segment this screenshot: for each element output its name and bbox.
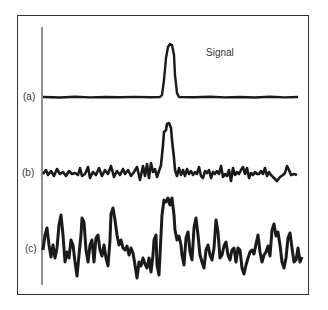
- trace-b-label: (b): [22, 167, 34, 178]
- trace-a-label: (a): [23, 91, 35, 102]
- signal-noise-figure: [0, 0, 328, 310]
- trace-c-label: (c): [25, 243, 37, 254]
- signal-annotation: Signal: [206, 47, 234, 58]
- trace-b: [43, 123, 297, 181]
- trace-c: [43, 198, 302, 278]
- trace-a: [43, 44, 298, 98]
